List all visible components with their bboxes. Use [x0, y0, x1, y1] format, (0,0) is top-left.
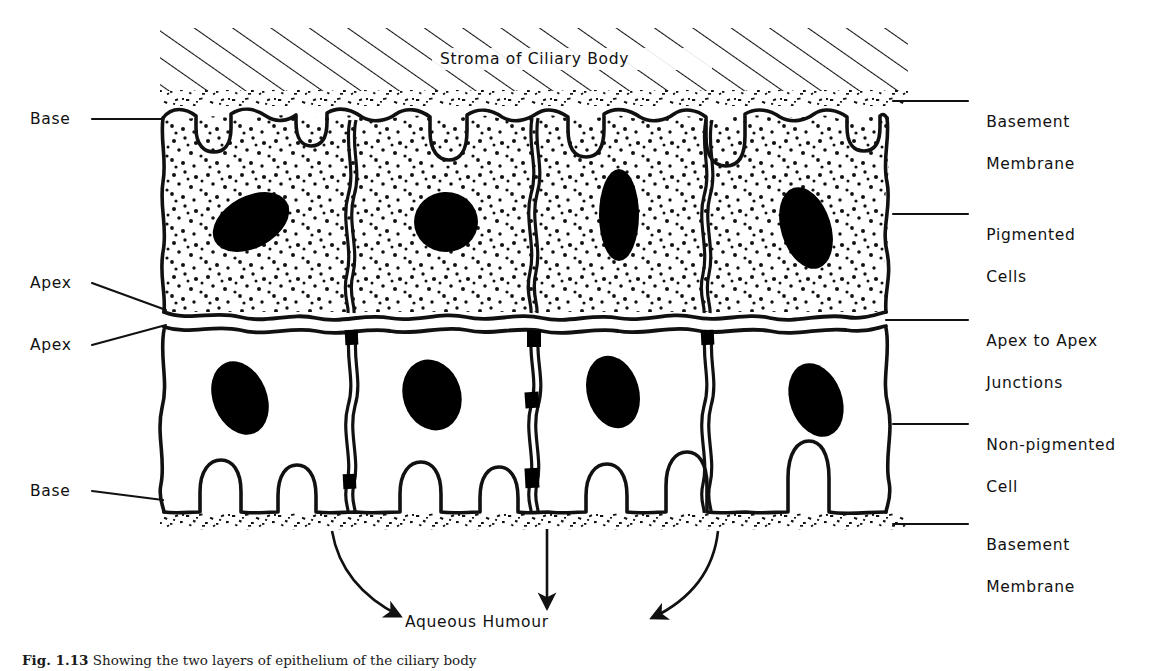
- basement-membrane-top-band: [160, 90, 908, 106]
- label-basement-membrane-top: Basement Membrane: [975, 91, 1075, 175]
- label-base-top: Base: [30, 109, 71, 130]
- label-line-1: Basement: [986, 536, 1070, 554]
- nucleus: [779, 355, 854, 444]
- label-line-1: Basement: [986, 113, 1070, 131]
- label-basement-membrane-bottom: Basement Membrane: [975, 514, 1075, 598]
- label-line-1: Apex to Apex: [986, 332, 1098, 350]
- label-stroma-of-ciliary-body: Stroma of Ciliary Body: [440, 49, 629, 70]
- figure-caption: Fig. 1.13 Showing the two layers of epit…: [22, 652, 1162, 668]
- leader-apex-pig: [92, 283, 166, 310]
- nucleus: [599, 169, 639, 261]
- label-apex-to-apex-junctions: Apex to Apex Junctions: [975, 310, 1098, 394]
- label-line-1: Pigmented: [986, 226, 1075, 244]
- arrow-right: [652, 531, 718, 618]
- leader-base-bottom: [92, 491, 163, 500]
- nucleus: [414, 192, 478, 252]
- nucleus: [201, 353, 280, 444]
- pigmented-cell-layer: [150, 100, 910, 330]
- label-apex-nonpigmented: Apex: [30, 335, 72, 356]
- nucleus: [393, 352, 470, 438]
- nucleus: [578, 349, 648, 434]
- apex-to-apex-junction: [164, 312, 886, 333]
- label-line-2: Cell: [986, 478, 1018, 496]
- label-line-1: Non-pigmented: [986, 436, 1116, 454]
- caption-text: Showing the two layers of epithelium of …: [93, 652, 477, 668]
- label-line-2: Membrane: [986, 578, 1075, 596]
- label-line-2: Cells: [986, 268, 1027, 286]
- caption-figure-number: Fig. 1.13: [22, 652, 88, 668]
- basement-membrane-bottom-band: [160, 513, 908, 530]
- leader-apex-nonpig: [92, 325, 166, 345]
- label-base-bottom: Base: [30, 481, 71, 502]
- label-pigmented-cells: Pigmented Cells: [975, 204, 1076, 288]
- arrow-left: [332, 531, 400, 616]
- aqueous-flow-arrows: [332, 529, 718, 618]
- label-aqueous-humour: Aqueous Humour: [405, 612, 549, 633]
- label-line-2: Junctions: [986, 374, 1063, 392]
- label-line-2: Membrane: [986, 155, 1075, 173]
- label-apex-pigmented: Apex: [30, 273, 72, 294]
- non-pigmented-cell-layer: [160, 328, 890, 513]
- label-non-pigmented-cell: Non-pigmented Cell: [975, 414, 1116, 498]
